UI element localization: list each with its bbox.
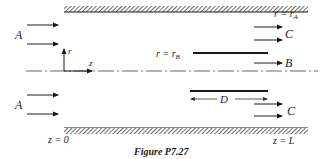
outlet-arrows-top (254, 27, 282, 40)
label-outlet-c-top: C (285, 27, 294, 41)
label-inner-radius: r = rB (156, 48, 181, 61)
outlet-arrows-bottom (254, 104, 282, 116)
axis-label-r: r (68, 46, 72, 56)
inlet-arrows-bottom (27, 95, 58, 114)
label-z-start: z = 0 (47, 134, 69, 145)
label-z-end: z = L (272, 135, 295, 146)
outer-wall-top (64, 6, 308, 12)
label-outlet-b: B (285, 56, 293, 70)
figure-caption: Figure P7.27 (133, 146, 189, 157)
diagram-canvas: A A r z C B C r = rA r = rB D z = 0 z = … (0, 0, 325, 159)
label-outlet-c-bottom: C (287, 104, 296, 118)
outer-wall-bottom (64, 128, 308, 134)
label-inlet-a-bottom: A (14, 98, 23, 112)
inlet-arrows-top (27, 25, 58, 44)
axis-label-z: z (88, 58, 93, 68)
label-inlet-a-top: A (14, 28, 23, 42)
label-dimension-d: D (219, 93, 228, 105)
